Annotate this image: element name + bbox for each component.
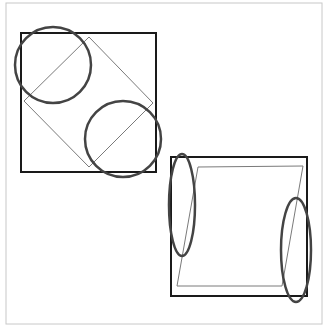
highlight-circle-bottom-right	[85, 101, 161, 177]
figure-1	[15, 27, 161, 177]
diagram-svg	[0, 0, 328, 330]
inner-parallelogram	[177, 166, 303, 286]
outer-frame	[6, 3, 322, 324]
figure-2	[169, 154, 311, 302]
highlight-circle-top-left	[15, 27, 91, 103]
diagram-canvas	[0, 0, 328, 330]
square-2	[171, 157, 307, 296]
